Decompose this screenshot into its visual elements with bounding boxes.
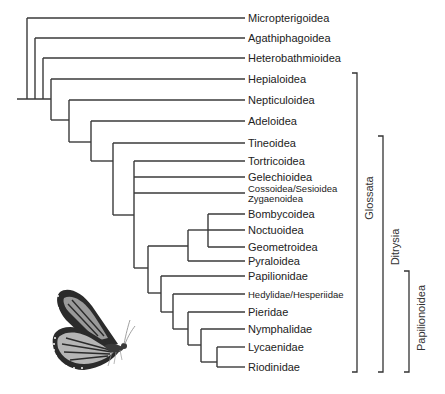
taxon-labels: MicropterigoideaAgathiphagoideaHeterobat… xyxy=(248,12,344,373)
clade-bracket-papilionoidea xyxy=(404,271,409,372)
clade-bracket-glossata xyxy=(352,73,357,372)
taxon-label: Adeloidea xyxy=(248,115,298,127)
taxon-label: Micropterigoidea xyxy=(248,12,330,24)
taxon-label: Tineoidea xyxy=(248,137,297,149)
taxon-label: Tortricoidea xyxy=(248,155,306,167)
taxon-label: Pieridae xyxy=(248,306,288,318)
taxon-label: Bombycoidea xyxy=(248,208,316,220)
clade-brackets: GlossataDitrysiaPapilionoidea xyxy=(352,73,427,372)
taxon-label: Nepticuloidea xyxy=(248,94,316,106)
taxon-label: Pyraloidea xyxy=(248,255,301,267)
clade-label-papilionoidea: Papilionoidea xyxy=(415,284,427,351)
taxon-label: Nymphalidae xyxy=(248,323,312,335)
clade-bracket-ditrysia xyxy=(378,136,383,372)
taxon-label: Papilionidae xyxy=(248,270,308,282)
clade-label-ditrysia: Ditrysia xyxy=(389,228,401,266)
taxon-label: Heterobathmioidea xyxy=(248,52,342,64)
taxon-label: Noctuoidea xyxy=(248,224,305,236)
tree-branches xyxy=(17,18,245,367)
taxon-label: Hedylidae/Hesperiidae xyxy=(248,289,344,300)
phylogenetic-tree-diagram: MicropterigoideaAgathiphagoideaHeterobat… xyxy=(0,0,445,394)
taxon-label: Riodinidae xyxy=(248,361,300,373)
taxon-label: Gelechioidea xyxy=(248,171,313,183)
taxon-label: Zygaenoidea xyxy=(248,193,304,204)
clade-label-glossata: Glossata xyxy=(363,175,375,219)
monarch-butterfly-illustration xyxy=(53,290,135,370)
taxon-label: Hepialoidea xyxy=(248,73,307,85)
taxon-label: Geometroidea xyxy=(248,241,319,253)
taxon-label: Lycaenidae xyxy=(248,341,304,353)
taxon-label: Agathiphagoidea xyxy=(248,32,331,44)
